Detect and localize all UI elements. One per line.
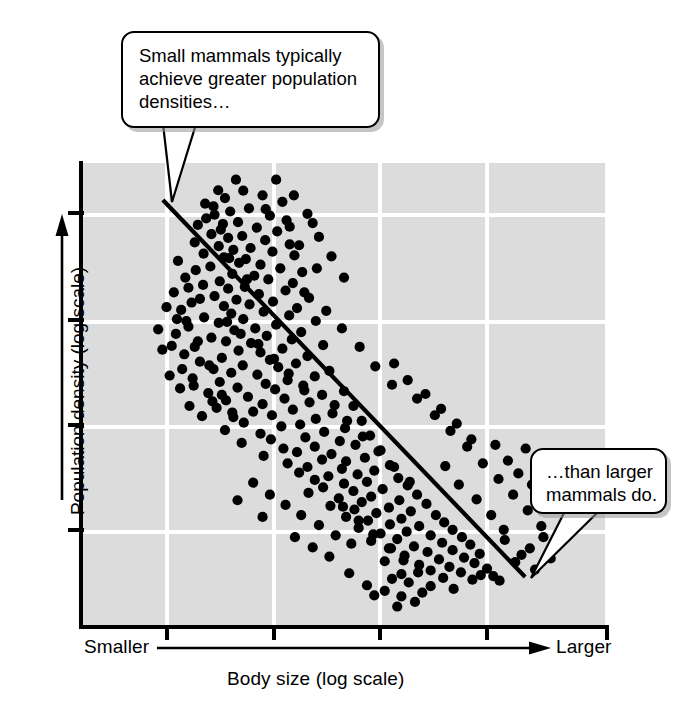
callout-large-mammals: …than larger mammals do. [530, 448, 667, 514]
x-axis-title: Body size (log scale) [227, 668, 404, 690]
callout-small-mammals-text: Small mammals typically achieve greater … [123, 33, 378, 113]
gridline-vertical [378, 163, 382, 625]
gridline-vertical [272, 163, 276, 625]
callout-small-mammals: Small mammals typically achieve greater … [121, 31, 380, 128]
gridline-horizontal [83, 530, 605, 534]
plot-area [83, 163, 605, 625]
x-axis-tick [165, 625, 169, 640]
x-axis-tick [272, 625, 276, 640]
x-axis-low-label: Smaller [84, 636, 149, 658]
scatter-plot-figure: Small mammals typically achieve greater … [0, 0, 694, 718]
x-axis-high-label: Larger [556, 636, 612, 658]
y-axis-title: Population density (log scale) [67, 241, 89, 541]
x-axis-tick [485, 625, 489, 640]
gridline-horizontal [83, 213, 605, 217]
gridline-vertical [165, 163, 169, 625]
y-axis-tick [68, 211, 84, 215]
x-axis-tick [378, 625, 382, 640]
gridline-horizontal [83, 320, 605, 324]
gridline-vertical [485, 163, 489, 625]
x-axis-line [79, 625, 609, 629]
callout-large-mammals-text: …than larger mammals do. [532, 450, 665, 506]
gridline-horizontal [83, 425, 605, 429]
x-axis-arrow-icon [157, 642, 551, 655]
